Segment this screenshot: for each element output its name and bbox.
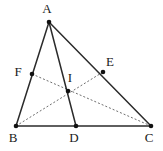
label-A: A [42, 1, 52, 16]
label-B: B [9, 130, 18, 145]
geometry-diagram-root: A B C D E F I [0, 0, 163, 151]
point-D-dot [74, 124, 79, 129]
point-A-dot [47, 20, 52, 25]
point-C-dot [149, 124, 154, 129]
side-AC [49, 22, 151, 126]
label-D: D [69, 130, 78, 145]
label-F: F [14, 64, 21, 79]
point-I-dot [66, 89, 71, 94]
cevian-BE-dotted [16, 72, 103, 126]
cevian-FC-dotted [32, 74, 151, 126]
point-B-dot [14, 124, 19, 129]
point-E-dot [101, 70, 106, 75]
label-I: I [68, 70, 72, 85]
label-E: E [106, 54, 114, 69]
label-C: C [145, 130, 154, 145]
point-F-dot [30, 72, 35, 77]
triangle-cevian-figure: A B C D E F I [0, 0, 163, 151]
